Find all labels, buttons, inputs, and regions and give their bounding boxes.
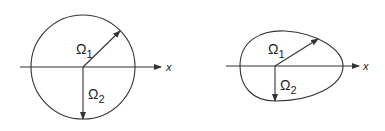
figure-circle: Ω1 Ω2 x	[20, 15, 172, 119]
omega1-label: Ω1	[76, 41, 93, 60]
x-axis-label: x	[165, 61, 172, 73]
omega1-label: Ω1	[268, 41, 285, 60]
x-axis-label: x	[362, 60, 369, 72]
omega2-label: Ω2	[88, 86, 105, 105]
omega2-label: Ω2	[280, 77, 297, 96]
figure-egg: Ω1 Ω2 x	[226, 31, 369, 101]
diagram-canvas: Ω1 Ω2 x Ω1 Ω2 x	[0, 0, 385, 131]
